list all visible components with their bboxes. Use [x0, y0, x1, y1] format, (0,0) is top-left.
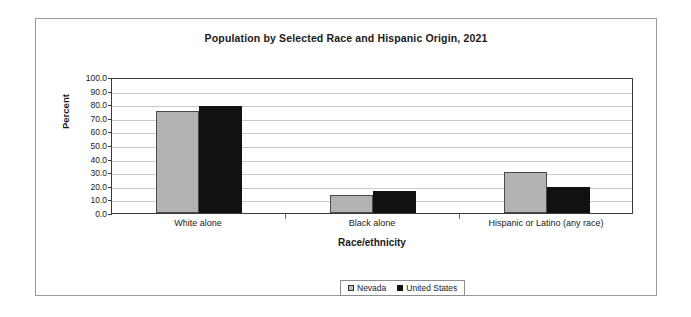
bar-united-states-black-alone — [373, 191, 416, 213]
legend-label: Nevada — [357, 283, 386, 293]
y-axis-tick-mark — [108, 214, 112, 215]
y-axis-tick-label: 70.0 — [67, 115, 107, 124]
x-axis-separator — [285, 214, 286, 219]
bar-united-states-hispanic-or-latino-any-race- — [547, 187, 590, 213]
chart-legend: NevadaUnited States — [340, 280, 465, 296]
bar-nevada-white-alone — [156, 111, 199, 213]
legend-entry-united-states[interactable]: United States — [397, 283, 457, 293]
legend-swatch-icon — [397, 285, 403, 291]
y-axis-tick-label: 60.0 — [67, 128, 107, 137]
y-axis-tick-label: 40.0 — [67, 156, 107, 165]
bar-nevada-black-alone — [330, 195, 373, 213]
y-axis-tick-label: 20.0 — [67, 183, 107, 192]
y-axis-tick-label: 50.0 — [67, 142, 107, 151]
y-axis-tick-labels: 100.090.080.070.060.050.040.030.020.010.… — [67, 71, 107, 221]
chart-figure-frame: Population by Selected Race and Hispanic… — [35, 18, 657, 296]
x-axis-category-label: White alone — [111, 218, 285, 228]
bar-nevada-hispanic-or-latino-any-race- — [504, 172, 547, 213]
y-axis-tick-label: 80.0 — [67, 101, 107, 110]
x-axis-category-label: Hispanic or Latino (any race) — [459, 218, 633, 228]
plot-area — [111, 78, 633, 214]
y-axis-tick-label: 90.0 — [67, 88, 107, 97]
legend-entry-nevada[interactable]: Nevada — [348, 283, 386, 293]
y-axis-tick-label: 30.0 — [67, 169, 107, 178]
bar-united-states-white-alone — [199, 106, 242, 213]
y-axis-tick-label: 10.0 — [67, 196, 107, 205]
x-axis-separator — [459, 214, 460, 219]
x-axis-title: Race/ethnicity — [111, 237, 633, 248]
x-axis-category-labels: White aloneBlack aloneHispanic or Latino… — [111, 218, 633, 232]
y-axis-tick-label: 0.0 — [67, 210, 107, 219]
y-axis-tick-label: 100.0 — [67, 74, 107, 83]
bars-layer — [112, 79, 632, 213]
legend-label: United States — [406, 283, 457, 293]
chart-title: Population by Selected Race and Hispanic… — [36, 32, 656, 44]
x-axis-category-label: Black alone — [285, 218, 459, 228]
legend-swatch-icon — [348, 285, 354, 291]
